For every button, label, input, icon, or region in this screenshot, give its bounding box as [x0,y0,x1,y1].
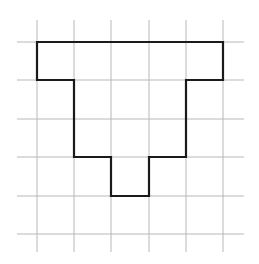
grid-diagram [0,0,259,264]
grid-lines [17,20,244,252]
